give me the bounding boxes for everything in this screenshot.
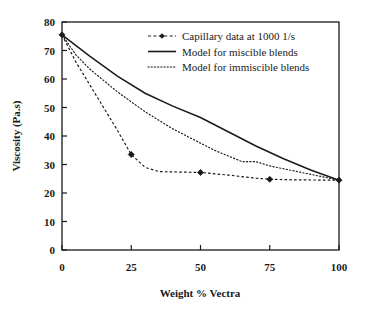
y-tick-label-60: 60 <box>44 73 56 85</box>
y-tick-label-20: 20 <box>44 187 56 199</box>
x-tick-label-100: 100 <box>331 261 348 273</box>
legend-label-1: Model for miscible blends <box>182 46 298 58</box>
x-tick-label-0: 0 <box>59 261 65 273</box>
x-tick-label-25: 25 <box>126 261 138 273</box>
y-tick-label-10: 10 <box>44 216 56 228</box>
x-tick-label-50: 50 <box>195 261 207 273</box>
y-tick-label-80: 80 <box>44 16 56 28</box>
y-axis-title: Viscosity (Pa.s) <box>10 100 23 171</box>
y-tick-label-50: 50 <box>44 102 56 114</box>
y-axis-tick-labels: 01020304050607080 <box>44 16 56 256</box>
x-tick-label-75: 75 <box>264 261 276 273</box>
x-axis-title: Weight % Vectra <box>160 287 241 299</box>
viscosity-vs-weight-percent-chart: 01020304050607080 0255075100 Weight % Ve… <box>0 0 365 318</box>
legend-label-2: Model for immiscible blends <box>182 61 309 73</box>
y-tick-label-30: 30 <box>44 159 56 171</box>
legend-label-0: Capillary data at 1000 1/s <box>182 30 295 42</box>
y-tick-label-40: 40 <box>44 130 56 142</box>
y-tick-label-0: 0 <box>50 244 56 256</box>
y-tick-label-70: 70 <box>44 45 56 57</box>
chart-container: 01020304050607080 0255075100 Weight % Ve… <box>0 0 365 318</box>
